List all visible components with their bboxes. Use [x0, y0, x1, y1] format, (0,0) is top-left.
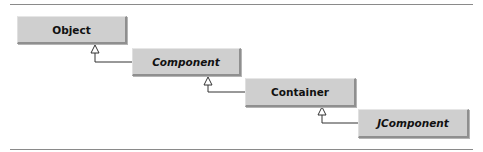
generalization-arrow-icon: [318, 107, 359, 123]
class-name: Component: [152, 56, 220, 68]
class-name: JComponent: [377, 117, 449, 129]
class-object[interactable]: Object: [17, 16, 127, 44]
class-container[interactable]: Container: [245, 78, 356, 107]
class-name: Container: [271, 86, 329, 98]
generalization-arrow-icon: [91, 45, 133, 62]
class-name: Object: [52, 24, 90, 36]
generalization-arrow-icon: [204, 77, 246, 92]
bottom-rule: [10, 149, 473, 150]
class-jcomponent[interactable]: JComponent: [358, 109, 469, 138]
class-component[interactable]: Component: [132, 48, 241, 76]
